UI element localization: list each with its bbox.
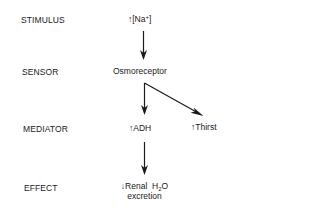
arrow-adh-to-effect [141, 142, 148, 175]
node-sensor-osmoreceptor: Osmoreceptor [113, 66, 167, 76]
effect-line-1: ↓Renal H2O [113, 181, 176, 191]
node-stimulus-sodium: ↑[Na+] [128, 14, 151, 24]
node-mediator-thirst: ↑Thirst [191, 122, 217, 132]
node-mediator-adh: ↑ADH [129, 123, 151, 133]
arrow-sensor-to-adh [141, 83, 148, 115]
node-effect-renal-water-excretion: ↓Renal H2O excretion [113, 181, 176, 201]
effect-line-2: excretion [113, 191, 176, 201]
arrow-stimulus-to-sensor [140, 31, 147, 60]
arrow-sensor-to-thirst [145, 83, 204, 116]
